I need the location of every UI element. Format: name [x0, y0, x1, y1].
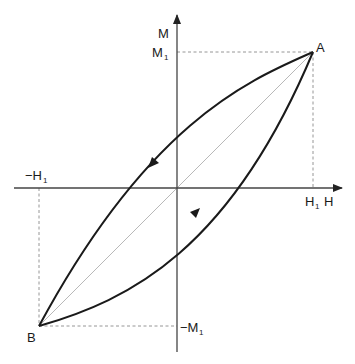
svg-text:−H: −H	[25, 168, 42, 183]
point-b-label: B	[27, 330, 36, 345]
hysteresis-diagram: M M 1 A −H 1 H 1 H B −M 1	[0, 0, 355, 364]
arrow-up-right-icon	[190, 208, 200, 218]
svg-text:1: 1	[43, 176, 48, 185]
label-neg-h1: −H 1	[25, 168, 48, 185]
svg-text:M: M	[152, 45, 163, 60]
h-axis-label: H	[324, 194, 333, 209]
svg-text:1: 1	[199, 328, 204, 337]
arrow-down-left-icon	[148, 157, 159, 168]
label-neg-m1: −M 1	[180, 320, 204, 337]
svg-text:1: 1	[315, 202, 320, 211]
point-a-label: A	[316, 40, 325, 55]
svg-text:H: H	[305, 194, 314, 209]
label-h1: H 1	[305, 194, 320, 211]
diagonal-line	[39, 52, 313, 326]
label-m1: M 1	[152, 45, 169, 62]
m-axis-label: M	[158, 26, 169, 41]
svg-text:1: 1	[164, 53, 169, 62]
svg-text:−M: −M	[180, 320, 198, 335]
